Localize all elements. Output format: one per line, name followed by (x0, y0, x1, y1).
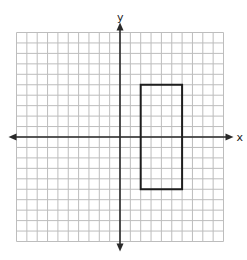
coordinate-plane: x y (0, 0, 247, 260)
y-axis-label: y (117, 11, 124, 24)
y-axis-arrow-down-icon (117, 244, 124, 252)
axes: x y (9, 11, 244, 252)
x-axis-label: x (237, 131, 244, 144)
x-axis-arrow-right-icon (226, 134, 234, 141)
x-axis-arrow-left-icon (9, 134, 17, 141)
y-axis-arrow-up-icon (117, 23, 124, 31)
